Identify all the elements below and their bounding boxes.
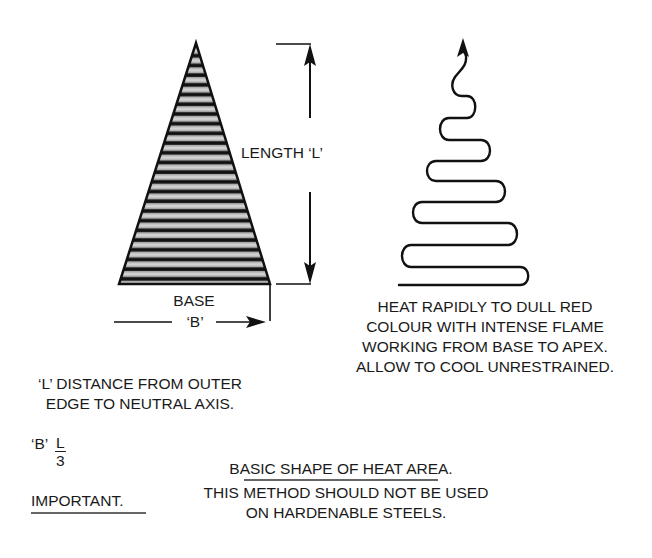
base-label: BASE bbox=[168, 291, 220, 311]
note-line: ‘L’ DISTANCE FROM OUTER bbox=[24, 374, 256, 394]
arrow-right-icon bbox=[216, 316, 266, 328]
warning-line: THIS METHOD SHOULD NOT BE USED bbox=[200, 483, 492, 503]
arrow-down-icon bbox=[304, 192, 316, 284]
heat-instruction-line: ALLOW TO COOL UNRESTRAINED. bbox=[330, 357, 640, 377]
heat-instruction-line: HEAT RAPIDLY TO DULL RED bbox=[330, 297, 640, 317]
arrow-up-icon bbox=[304, 44, 316, 118]
heat-instruction-line: WORKING FROM BASE TO APEX. bbox=[330, 337, 640, 357]
length-label: LENGTH ‘L’ bbox=[241, 143, 323, 163]
b-formula-fraction: L 3 bbox=[55, 434, 66, 469]
fraction-denominator: 3 bbox=[55, 452, 66, 469]
l-definition-note: ‘L’ DISTANCE FROM OUTER EDGE TO NEUTRAL … bbox=[24, 374, 264, 414]
heat-instruction-line: COLOUR WITH INTENSE FLAME bbox=[330, 317, 640, 337]
heat-area-triangle bbox=[119, 43, 270, 284]
length-dimension bbox=[276, 44, 316, 284]
heat-path-arrow-icon bbox=[457, 38, 469, 57]
base-symbol-label: ‘B’ bbox=[176, 312, 214, 332]
b-formula-prefix: ‘B’ bbox=[31, 434, 48, 454]
note-line: EDGE TO NEUTRAL AXIS. bbox=[24, 394, 256, 414]
important-label: IMPORTANT. bbox=[31, 491, 123, 511]
heat-path-serpentine bbox=[399, 38, 528, 285]
fraction-numerator: L bbox=[55, 434, 66, 452]
diagram-title: BASIC SHAPE OF HEAT AREA. bbox=[228, 459, 454, 479]
heat-instructions: HEAT RAPIDLY TO DULL RED COLOUR WITH INT… bbox=[330, 297, 640, 377]
warning-line: ON HARDENABLE STEELS. bbox=[200, 503, 492, 523]
